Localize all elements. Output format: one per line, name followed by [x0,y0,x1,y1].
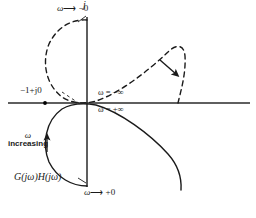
label-j-axis-symbol: j [83,0,86,11]
nyquist-plot-figure: ω⟶ −0 j −1+j0 ω = −∞ ω = +∞ ω increasing… [0,0,256,218]
label-omega-plus-infinity: ω = +∞ [98,105,124,114]
arrow-top: ⟶ [63,3,76,13]
figure-caption [2,209,256,218]
label-omega-approaches-plus-zero: ω⟶ +0 [84,188,115,197]
plus-zero-bottom: +0 [106,187,116,197]
increasing-text: increasing [8,140,48,148]
transfer-function-leader-line [78,178,86,183]
nyquist-plot-canvas [0,0,256,218]
positive-frequency-locus [45,104,181,190]
label-omega-minus-infinity: ω = −∞ [98,88,124,97]
top-label-leader-line [78,16,86,22]
label-critical-point: −1+j0 [20,86,42,95]
negative-branch-direction-arrow [160,60,176,74]
transfer-function-text: G(jω)H(jω) [14,171,61,182]
label-omega-increasing: ω increasing [8,131,48,148]
label-transfer-function: G(jω)H(jω) [14,172,61,183]
arrow-bottom: ⟶ [90,187,103,197]
critical-point-marker [43,101,47,105]
